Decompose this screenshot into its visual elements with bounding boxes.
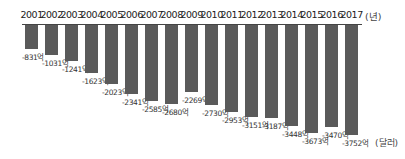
bar-2001 [25,25,38,49]
bar-2003 [65,25,78,61]
x-tick-label: 2007 [141,9,163,20]
x-tick-label: 2011 [221,9,243,20]
bar-2017 [345,25,358,135]
bar-2006 [125,25,138,94]
bar-2013 [265,25,278,118]
bar-2010 [205,25,218,105]
bar-2016 [325,25,338,127]
x-tick-label: 2017 [341,9,363,20]
bar-chart: (년) 2001-831억2002-1031억2003-1241억2004-16… [0,0,405,159]
x-tick-label: 2002 [41,9,63,20]
x-tick-label: 2013 [261,9,283,20]
x-tick-label: 2004 [81,9,103,20]
bar-2009 [185,25,198,92]
bar-2011 [225,25,238,112]
bar-2015 [305,25,318,133]
bar-2005 [105,25,118,84]
x-tick-label: 2012 [241,9,263,20]
value-label-2008: -2680억 [162,106,188,117]
x-tick-label: 2014 [281,9,303,20]
x-tick-label: 2016 [321,9,343,20]
x-tick-label: 2003 [61,9,83,20]
x-tick-label: 2006 [121,9,143,20]
x-tick-label: 2015 [301,9,323,20]
bar-2014 [285,25,298,126]
x-tick-label: 2010 [201,9,223,20]
x-axis-unit: (년) [365,9,381,23]
x-tick-label: 2008 [161,9,183,20]
bar-2012 [245,25,258,117]
x-tick-label: 2001 [21,9,43,20]
bar-2004 [85,25,98,73]
x-tick-label: 2009 [181,9,203,20]
bar-2007 [145,25,158,101]
bar-2008 [165,25,178,104]
x-tick-label: 2005 [101,9,123,20]
bar-2002 [45,25,58,55]
value-label-2017: -3752억 [342,137,368,148]
value-label-2001: -831억 [22,51,44,62]
y-axis-unit: (달러) [375,136,398,149]
